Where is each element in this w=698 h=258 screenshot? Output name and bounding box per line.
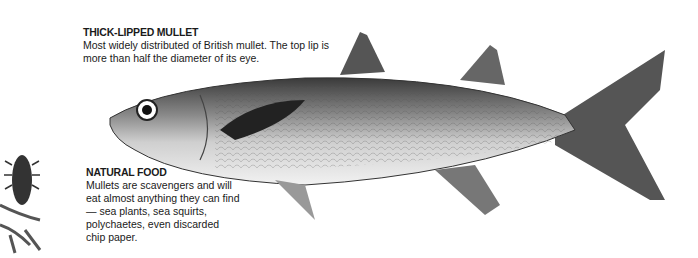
mullet-fish-illustration bbox=[105, 30, 695, 230]
sea-louse-illustration bbox=[0, 145, 60, 258]
bug-body bbox=[12, 155, 32, 205]
seaweed bbox=[0, 205, 40, 253]
second-dorsal-fin bbox=[460, 45, 505, 85]
dorsal-fin bbox=[340, 32, 385, 75]
anal-fin bbox=[435, 165, 500, 215]
pelvic-fin bbox=[275, 180, 315, 220]
food-line: chip paper. bbox=[86, 231, 240, 244]
